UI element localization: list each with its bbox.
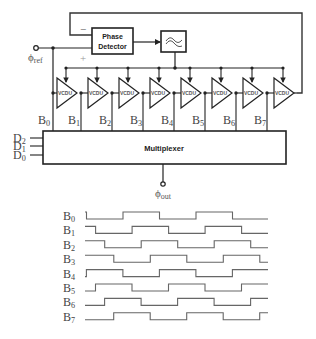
vcdu-label: VCDU [89,90,104,96]
phase-detector-label-2: Detector [98,43,127,50]
vcdu-label: VCDU [213,90,228,96]
vcdu-label: VCDU [58,90,73,96]
waveform-b4 [85,270,268,277]
vcdu-label: VCDU [120,90,135,96]
tap-label-b4: B4 [161,113,173,128]
output-out: ϕout [155,164,172,201]
waveform-b5 [85,284,268,291]
signal-label-b2: B2 [63,238,75,253]
signal-label-b4: B4 [63,267,75,282]
phi-out-label: ϕout [155,187,172,201]
vcdu-chain: VCDUVCDUVCDUVCDUVCDUVCDUVCDUVCDUB0B1B2B3… [38,66,297,131]
low-pass-filter-icon [161,31,186,52]
waveform-b7 [85,313,268,320]
waveform-b2 [85,241,268,248]
select-lines: D2D1D0 [13,131,43,163]
waveform-b6 [85,298,268,305]
tap-label-b5: B5 [192,113,204,128]
waveform-b1 [85,226,268,233]
tap-label-b6: B6 [223,113,235,128]
signal-label-b3: B3 [63,252,75,267]
phase-detector-label-1: Phase [102,33,123,40]
tap-label-b7: B7 [254,113,266,128]
tap-label-b3: B3 [130,113,142,128]
tap-label-b0: B0 [38,113,50,128]
waveform-b3 [85,255,268,262]
signal-label-b1: B1 [63,223,75,238]
signal-label-b5: B5 [63,281,75,296]
signal-label-b0: B0 [63,209,75,224]
tap-label-b1: B1 [68,113,80,128]
minus-sign: − [80,23,86,35]
vcdu-label: VCDU [275,90,290,96]
phase-detector: Phase Detector [92,28,133,54]
vcdu-label: VCDU [182,90,197,96]
input-terminal [34,46,39,51]
timing-diagram: B0B1B2B3B4B5B6B7 [63,209,268,325]
output-terminal [161,182,165,186]
vcdu-label: VCDU [151,90,166,96]
signal-label-b7: B7 [63,310,75,325]
multiplexer: Multiplexer [43,131,286,164]
waveform-b0 [85,212,268,219]
multiplexer-label: Multiplexer [144,144,184,153]
phi-ref-label: ϕref [28,51,43,65]
dll-diagram: − + Phase Detector ϕref VCDUVCDUVCDUVCDU… [0,0,316,339]
vcdu-label: VCDU [244,90,259,96]
signal-label-b6: B6 [63,295,75,310]
vcdu-buffer: VCDU [265,66,294,108]
tap-label-b2: B2 [99,113,111,128]
plus-sign: + [80,52,86,64]
